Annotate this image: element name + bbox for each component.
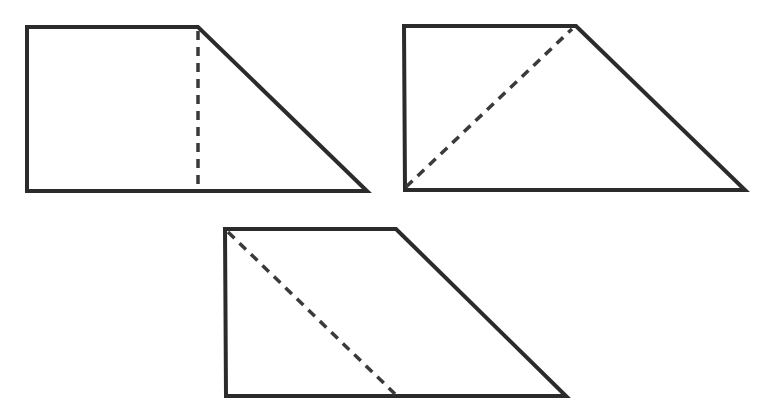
trapezoid-3 bbox=[225, 229, 566, 396]
trapezoid-2-diagonal-dashed-line bbox=[406, 29, 572, 187]
trapezoid-1-group bbox=[27, 27, 367, 191]
trapezoid-2 bbox=[404, 26, 745, 190]
trapezoid-3-group bbox=[225, 229, 566, 396]
trapezoid-3-diagonal-dashed-line bbox=[228, 232, 395, 394]
trapezoid-2-group bbox=[404, 26, 745, 190]
trapezoid-diagram bbox=[0, 0, 771, 418]
